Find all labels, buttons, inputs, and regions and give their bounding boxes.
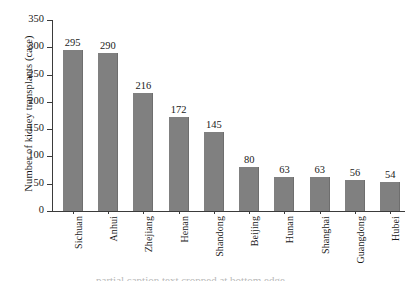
bar-group[interactable]: 295Sichuan bbox=[63, 20, 83, 211]
y-tick: 0 bbox=[47, 211, 52, 212]
bar-group[interactable]: 216Zhejiang bbox=[133, 20, 153, 211]
x-tick-label: Beijing bbox=[249, 216, 260, 246]
x-tick bbox=[73, 211, 74, 214]
x-tick bbox=[390, 211, 391, 214]
x-tick-label: Henan bbox=[179, 216, 190, 243]
bar[interactable] bbox=[98, 53, 118, 211]
x-tick bbox=[143, 211, 144, 214]
x-tick-label: Guangdong bbox=[355, 216, 366, 264]
x-tick-label: Hunan bbox=[284, 216, 295, 243]
x-tick-label: Shanghai bbox=[320, 216, 331, 254]
y-tick-label: 50 bbox=[34, 177, 45, 188]
y-tick-label: 100 bbox=[28, 149, 44, 160]
x-tick bbox=[108, 211, 109, 214]
x-tick-label: Hubei bbox=[390, 216, 401, 241]
bar-group[interactable]: 54Hubei bbox=[380, 20, 400, 211]
bar[interactable] bbox=[345, 180, 365, 211]
bar-value-label: 80 bbox=[244, 154, 255, 165]
bar[interactable] bbox=[204, 132, 224, 211]
x-tick-label: Anhui bbox=[108, 216, 119, 242]
plot-area: 050100150200250300350 295Sichuan290Anhui… bbox=[52, 20, 405, 211]
y-tick: 100 bbox=[47, 156, 52, 157]
bar-group[interactable]: 145Shandong bbox=[204, 20, 224, 211]
bar-value-label: 56 bbox=[350, 167, 361, 178]
y-tick-label: 250 bbox=[28, 68, 44, 79]
bar[interactable] bbox=[274, 177, 294, 211]
x-tick-label: Shandong bbox=[214, 216, 225, 257]
y-tick-label: 150 bbox=[28, 122, 44, 133]
cropped-caption: partial caption text cropped at bottom e… bbox=[96, 274, 396, 281]
y-tick: 200 bbox=[47, 102, 52, 103]
bar-group[interactable]: 56Guangdong bbox=[345, 20, 365, 211]
y-tick: 300 bbox=[47, 47, 52, 48]
bar-group[interactable]: 172Henan bbox=[169, 20, 189, 211]
bar[interactable] bbox=[239, 167, 259, 211]
x-axis-line bbox=[52, 211, 405, 212]
y-tick-label: 300 bbox=[28, 40, 44, 51]
y-tick: 250 bbox=[47, 75, 52, 76]
bar-value-label: 145 bbox=[206, 119, 222, 130]
x-tick-label: Sichuan bbox=[73, 216, 84, 249]
x-tick bbox=[284, 211, 285, 214]
y-tick: 150 bbox=[47, 129, 52, 130]
y-tick: 50 bbox=[47, 184, 52, 185]
bar[interactable] bbox=[380, 182, 400, 211]
bar[interactable] bbox=[169, 117, 189, 211]
bar[interactable] bbox=[133, 93, 153, 211]
y-tick-label: 0 bbox=[39, 204, 44, 215]
bar-value-label: 63 bbox=[315, 164, 326, 175]
bar-value-label: 54 bbox=[385, 169, 396, 180]
bar-value-label: 63 bbox=[279, 164, 290, 175]
bar-value-label: 295 bbox=[65, 37, 81, 48]
bar-value-label: 290 bbox=[100, 40, 116, 51]
bar[interactable] bbox=[310, 177, 330, 211]
bar[interactable] bbox=[63, 50, 83, 211]
y-tick-label: 200 bbox=[28, 95, 44, 106]
x-tick bbox=[179, 211, 180, 214]
bar-value-label: 216 bbox=[135, 80, 151, 91]
y-axis-line bbox=[52, 20, 53, 211]
x-tick bbox=[249, 211, 250, 214]
x-tick bbox=[355, 211, 356, 214]
x-tick bbox=[320, 211, 321, 214]
y-tick: 350 bbox=[47, 20, 52, 21]
bar-value-label: 172 bbox=[171, 104, 187, 115]
bar-group[interactable]: 63Hunan bbox=[274, 20, 294, 211]
bar-group[interactable]: 290Anhui bbox=[98, 20, 118, 211]
bar-group[interactable]: 63Shanghai bbox=[310, 20, 330, 211]
bar-group[interactable]: 80Beijing bbox=[239, 20, 259, 211]
y-tick-label: 350 bbox=[28, 13, 44, 24]
x-tick bbox=[214, 211, 215, 214]
x-tick-label: Zhejiang bbox=[143, 216, 154, 252]
chart-figure: Number of kidney transplants (case) 0501… bbox=[0, 0, 418, 281]
